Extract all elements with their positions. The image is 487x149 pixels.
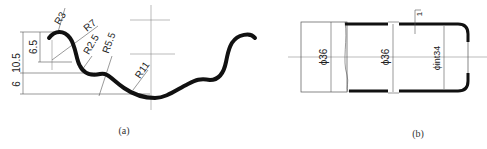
figure-b: ϕ36 ϕ36 ϕint34 1 (b)	[288, 10, 487, 140]
dim-thickness: 1	[415, 11, 424, 16]
dim-r5-5: R5.5	[100, 31, 118, 55]
dim-6: 6	[11, 81, 22, 87]
dim-10-5: 10.5	[11, 53, 22, 73]
end-cap-bottom	[458, 73, 468, 91]
figure-a: 10.5 6.5 6 R3 R7 R2.5 R5.5 R11 (a)	[11, 5, 255, 137]
profile-curve	[49, 32, 255, 98]
dim-r11: R11	[133, 59, 152, 80]
dim-r7: R7	[81, 17, 98, 34]
dim-r3: R3	[52, 10, 68, 27]
dim-d36-left: ϕ36	[318, 48, 329, 65]
dim-dint34: ϕint34	[432, 46, 442, 71]
dim-r2-5: R2.5	[81, 32, 101, 56]
end-cap-top	[458, 24, 468, 42]
dim-d36-middle: ϕ36	[380, 48, 391, 65]
dim-6-5: 6.5	[28, 40, 39, 54]
caption-b: (b)	[412, 128, 424, 140]
caption-a: (a)	[118, 125, 129, 137]
drawing-canvas: 10.5 6.5 6 R3 R7 R2.5 R5.5 R11 (a)	[0, 0, 487, 149]
